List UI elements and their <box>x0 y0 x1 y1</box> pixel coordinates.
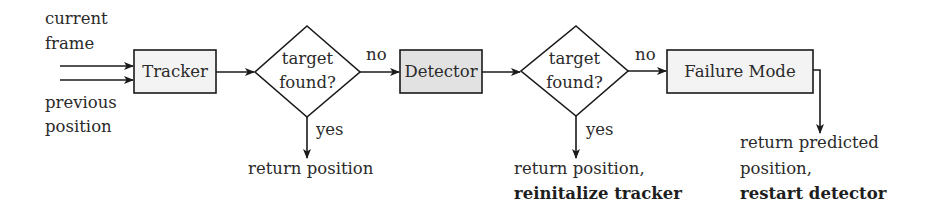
decision2-label-line2: found? <box>521 72 628 94</box>
decision1-label-line2: found? <box>255 72 360 94</box>
edge-label-decision1-yes: yes <box>316 122 344 139</box>
output3-line2: position, <box>740 161 812 178</box>
detector-label: Detector <box>400 50 482 93</box>
output3-line1: return predicted <box>740 135 879 152</box>
edge-label-decision1-no: no <box>366 47 387 64</box>
flowchart-canvas: current frame previous position Tracker … <box>0 0 935 219</box>
edge-label-decision2-no: no <box>635 47 656 64</box>
arrow-failure-mode-out <box>813 70 820 133</box>
input-label-previous: previous <box>45 95 117 112</box>
output2-line1: return position, <box>514 161 645 178</box>
decision1-label-line1: target <box>255 48 360 70</box>
decision2-label-line1: target <box>521 48 628 70</box>
input-label-position: position <box>45 119 112 136</box>
failure-mode-label: Failure Mode <box>667 50 813 93</box>
tracker-label: Tracker <box>134 50 216 93</box>
output2-line2-bold: reinitalize tracker <box>514 186 682 203</box>
output3-line3-bold: restart detector <box>740 186 886 203</box>
input-label-frame: frame <box>45 36 94 53</box>
edge-label-decision2-yes: yes <box>586 122 614 139</box>
input-label-current: current <box>45 11 108 28</box>
output1-line1: return position <box>248 161 373 178</box>
